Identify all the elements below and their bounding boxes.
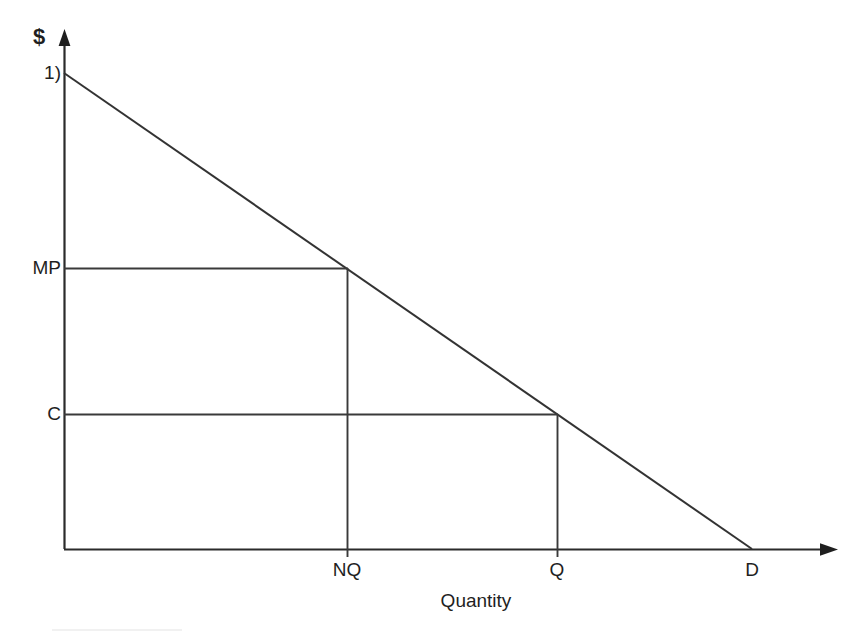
y-axis-label: $ [33, 26, 45, 48]
y-tick-label-mp: MP [1, 258, 61, 277]
y-tick-label-c: C [1, 404, 61, 423]
demand-curve-figure: $ 1) MP C NQ Q D Quantity [0, 0, 858, 642]
x-axis-arrowhead-icon [820, 543, 838, 556]
y-intercept-label: 1) [1, 63, 61, 82]
chart-canvas [0, 0, 858, 642]
y-axis [59, 29, 71, 549]
scan-artifact [52, 629, 182, 631]
y-axis-arrowhead-icon [59, 29, 71, 46]
x-tick-label-nq: NQ [317, 560, 377, 579]
x-tick-label-q: Q [527, 560, 587, 579]
x-tick-label-d: D [722, 560, 782, 579]
x-axis-title: Quantity [406, 591, 546, 610]
demand-curve-line [64, 73, 752, 549]
x-axis [64, 543, 838, 556]
